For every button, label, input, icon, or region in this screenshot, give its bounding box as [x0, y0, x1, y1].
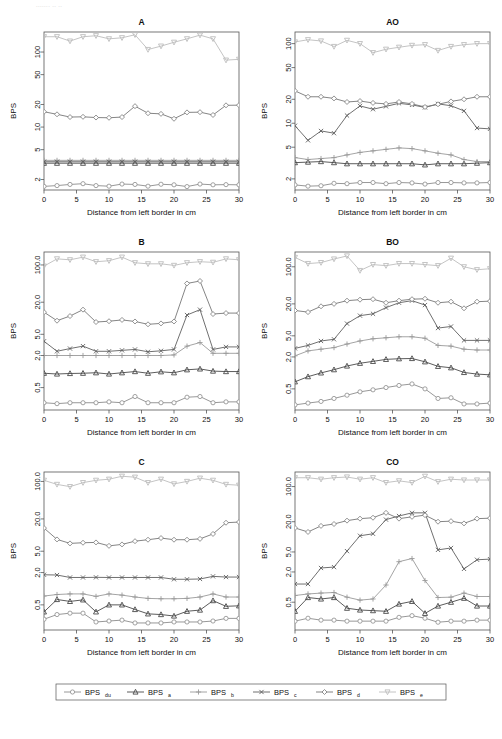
x-tick-label: 20: [170, 415, 178, 424]
series-markers-bps_e: [42, 33, 242, 63]
x-tick-label: 25: [202, 415, 210, 424]
series-markers-bps_e: [293, 38, 493, 56]
y-tick-label: 100: [33, 46, 42, 59]
x-axis-title: Distance from left border in cm: [338, 208, 447, 217]
x-tick-label: 15: [137, 195, 145, 204]
panel-title: B: [138, 237, 144, 247]
x-axis-title: Distance from left border in cm: [87, 208, 196, 217]
series-markers-bps_a: [293, 356, 493, 384]
legend-label-subscript: b: [231, 692, 234, 698]
y-tick-label: 20: [33, 100, 42, 108]
x-tick-label: 10: [356, 195, 364, 204]
x-tick-label: 15: [388, 635, 396, 644]
series-line-bps_c: [44, 575, 239, 580]
series-line-bps_e: [295, 40, 490, 53]
series-line-bps_a: [295, 358, 490, 381]
series-markers-bps_e: [293, 474, 493, 485]
series-markers-bps_du: [293, 382, 492, 407]
y-tick-label: 5.0: [33, 329, 42, 339]
y-tick-label: 5: [33, 148, 42, 152]
x-tick-label: 0: [293, 415, 297, 424]
x-tick-label: 15: [137, 415, 145, 424]
chart-panel-a: A05101520253025102050100Distance from le…: [9, 17, 243, 217]
x-tick-label: 0: [42, 195, 46, 204]
y-tick-label: 0.5: [284, 384, 293, 394]
x-axis-title: Distance from left border in cm: [87, 428, 196, 437]
x-tick-label: 0: [293, 195, 297, 204]
x-tick-label: 5: [74, 195, 78, 204]
y-axis-title: BPS: [260, 323, 269, 339]
y-tick-label: 2.0: [284, 567, 293, 577]
chart-panel-ao: AO05101520253025102050100Distance from l…: [260, 17, 494, 217]
series-markers-bps_e: [42, 474, 242, 489]
series-markers-bps_b: [292, 334, 492, 358]
legend-label-subscript: du: [105, 692, 111, 698]
legend: BPSduBPSaBPSbBPScBPSdBPSe: [56, 684, 446, 700]
y-axis-title: BPS: [9, 103, 18, 119]
legend-label: BPS: [148, 688, 163, 697]
figure-panel-grid: A05101520253025102050100Distance from le…: [0, 12, 502, 712]
series-line-bps_d: [44, 105, 239, 119]
x-tick-label: 10: [105, 635, 113, 644]
y-tick-label: 0.5: [33, 382, 42, 392]
x-tick-label: 10: [105, 195, 113, 204]
series-line-bps_b: [295, 337, 490, 356]
x-tick-label: 0: [42, 415, 46, 424]
series-markers-bps_d: [42, 520, 242, 549]
legend-label: BPS: [274, 688, 289, 697]
series-line-bps_a: [295, 162, 490, 165]
series-line-bps_b: [295, 148, 490, 162]
x-tick-label: 15: [388, 195, 396, 204]
series-line-bps_d: [295, 513, 490, 532]
panel-title: C: [138, 457, 144, 467]
series-layer: [41, 33, 241, 189]
series-line-bps_a: [295, 598, 490, 614]
series-line-bps_d: [44, 281, 239, 324]
series-line-bps_du: [295, 616, 490, 623]
legend-label: BPS: [211, 688, 226, 697]
legend-label-subscript: d: [357, 692, 360, 698]
legend-item-bps-e: BPSe: [379, 688, 423, 698]
legend-item-bps-b: BPSb: [190, 688, 234, 698]
y-tick-label: 0.5: [284, 597, 293, 607]
y-tick-label: 10: [33, 123, 42, 131]
legend-label: BPS: [337, 688, 352, 697]
y-tick-label: 5.0: [284, 547, 293, 557]
x-tick-label: 25: [453, 635, 461, 644]
series-line-bps_b: [295, 559, 490, 601]
series-markers-bps_d: [293, 88, 493, 109]
x-tick-label: 10: [105, 415, 113, 424]
x-tick-label: 0: [42, 635, 46, 644]
y-tick-label: 0.5: [33, 600, 42, 610]
series-markers-bps_a: [42, 366, 242, 376]
series-layer: [41, 474, 241, 625]
series-line-bps_du: [44, 184, 239, 187]
x-tick-label: 5: [74, 635, 78, 644]
y-tick-label: 2: [33, 177, 42, 181]
x-tick-label: 20: [170, 195, 178, 204]
plot-frame: [295, 472, 490, 630]
y-tick-label: 2.0: [33, 350, 42, 360]
series-layer: [292, 474, 492, 624]
x-tick-label: 30: [235, 415, 243, 424]
series-line-bps_e: [295, 476, 490, 482]
series-line-bps_d: [44, 522, 239, 546]
series-line-bps_c: [44, 310, 239, 352]
x-tick-label: 30: [486, 195, 494, 204]
x-tick-label: 20: [421, 415, 429, 424]
x-tick-label: 25: [453, 195, 461, 204]
series-layer: [292, 254, 492, 407]
panel-title: A: [138, 17, 144, 27]
panel-title: CO: [386, 457, 399, 467]
series-markers-bps_d: [293, 510, 493, 534]
x-tick-label: 30: [235, 195, 243, 204]
y-tick-label: 10: [284, 119, 293, 127]
legend-label: BPS: [400, 688, 415, 697]
y-tick-label: 2.0: [33, 567, 42, 577]
y-axis-title: BPS: [9, 543, 18, 559]
x-tick-label: 20: [170, 635, 178, 644]
legend-label-subscript: a: [168, 692, 171, 698]
x-tick-label: 10: [356, 635, 364, 644]
y-tick-label: 5.0: [284, 331, 293, 341]
y-axis-title: BPS: [260, 543, 269, 559]
